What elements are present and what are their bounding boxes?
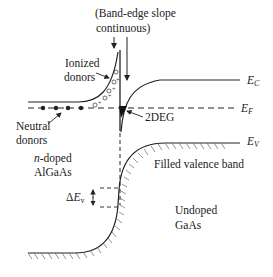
neutral-donor-dot: [41, 106, 45, 110]
ec-label: EC: [246, 74, 260, 88]
title-line-1: (Band-edge slope: [95, 7, 176, 20]
conduction-band-gaas: [121, 80, 240, 132]
neutral-donor-dot: [54, 106, 58, 110]
ev-label: EV: [246, 135, 260, 149]
delta-ev-label: ΔEv: [66, 191, 84, 205]
two-deg-arrow: [127, 111, 143, 117]
algaas-label: AlGaAs: [34, 166, 72, 178]
title-line-2: continuous): [96, 22, 150, 35]
neutral-donors-arrow: [48, 113, 61, 124]
neutral-donor-dot: [66, 106, 70, 110]
neutral-donor-dot: [79, 106, 83, 110]
svg-text:+: +: [98, 100, 102, 106]
neutral-donors-label-1: Neutral: [16, 120, 50, 132]
filled-valence-band-label: Filled valence band: [154, 158, 244, 170]
n-doped-label: n-doped: [34, 152, 72, 165]
svg-text:+: +: [108, 93, 112, 99]
ionized-donors-arrow: [96, 73, 109, 78]
ionized-donors-label-2: donors: [64, 71, 96, 83]
heterojunction-band-diagram: (Band-edge slope continuous) + + + + Ion…: [0, 0, 273, 277]
ionized-donors-label-1: Ionized: [65, 57, 100, 69]
ef-label: EF: [240, 102, 253, 116]
neutral-donors-label-2: donors: [16, 134, 48, 146]
undoped-label: Undoped: [175, 204, 217, 217]
gaas-label: GaAs: [175, 219, 202, 231]
two-deg-label: 2DEG: [145, 111, 174, 123]
svg-text:+: +: [112, 86, 116, 92]
